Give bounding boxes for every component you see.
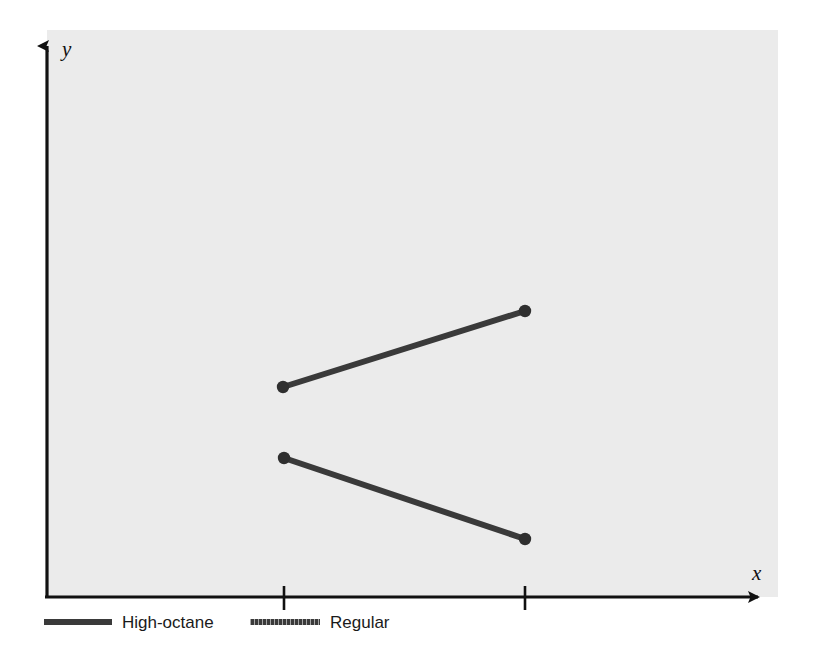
chart-legend: High-octane Regular <box>0 608 819 640</box>
legend-item-regular: Regular <box>250 608 390 636</box>
series-high-octane-point-0 <box>277 381 289 393</box>
series-high-octane-point-1 <box>519 305 531 317</box>
legend-item-high-octane: High-octane <box>44 608 214 636</box>
chart-figure: y x High-octane Regular <box>0 0 819 659</box>
legend-swatch-textured-icon <box>250 619 320 625</box>
y-axis-label: y <box>60 37 72 61</box>
legend-swatch-solid-icon <box>44 619 112 625</box>
legend-label-regular: Regular <box>330 614 390 631</box>
series-regular-line <box>284 458 525 539</box>
plot-svg: y x <box>0 0 819 659</box>
series-regular-point-0 <box>278 452 290 464</box>
series-regular <box>278 452 531 545</box>
x-axis-label: x <box>751 561 762 585</box>
legend-label-high-octane: High-octane <box>122 614 214 631</box>
series-high-octane <box>277 305 531 393</box>
series-regular-point-1 <box>519 533 531 545</box>
series-high-octane-line <box>283 311 525 387</box>
